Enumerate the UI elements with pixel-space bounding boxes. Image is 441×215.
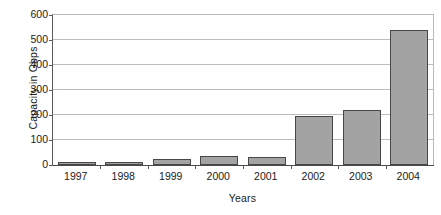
x-tick-label: 2002 <box>290 170 338 182</box>
x-tick-label: 2004 <box>385 170 433 182</box>
x-tick-label: 1999 <box>147 170 195 182</box>
y-tick-label: 600 <box>20 8 48 20</box>
plot-area <box>52 14 434 165</box>
bar <box>200 156 238 165</box>
x-tick-label: 1998 <box>100 170 148 182</box>
x-tick-label: 1997 <box>52 170 100 182</box>
bar <box>343 110 381 165</box>
x-axis-tick-labels: 1997 1998 1999 2000 2001 2002 2003 2004 <box>52 170 433 184</box>
x-axis-title: Years <box>52 192 433 204</box>
y-tick-label: 200 <box>20 108 48 120</box>
y-axis-tick-labels: 600 500 400 300 200 100 0 <box>20 8 48 170</box>
y-tick-label: 300 <box>20 83 48 95</box>
bars-layer <box>53 15 433 165</box>
y-tick-label: 400 <box>20 58 48 70</box>
bar <box>248 157 286 165</box>
bar <box>390 30 428 165</box>
bar <box>295 116 333 166</box>
x-tick-label: 2001 <box>242 170 290 182</box>
x-tick-label: 2003 <box>337 170 385 182</box>
x-axis-line <box>53 165 434 166</box>
y-tick-label: 100 <box>20 133 48 145</box>
bar-chart-figure: Capacity in Gbps 600 500 400 300 200 100… <box>0 0 441 215</box>
y-tick-label: 500 <box>20 33 48 45</box>
x-tick-label: 2000 <box>195 170 243 182</box>
y-tick-label: 0 <box>20 158 48 170</box>
